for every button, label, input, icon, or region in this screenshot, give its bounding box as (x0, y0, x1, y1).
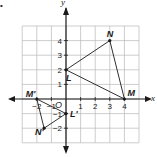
x-tick-label: 4 (122, 102, 127, 111)
vertex-m-prime (35, 97, 38, 100)
vertex-label: L' (70, 109, 78, 119)
y-tick-label: 4 (58, 37, 63, 46)
tick-labels: −2−112344321−1−2 (32, 37, 127, 134)
axes: x y O (8, 0, 155, 154)
x-tick-label: −2 (32, 102, 42, 111)
y-axis-label: y (60, 0, 65, 7)
y-axis-arrow-down (63, 146, 69, 154)
vertex-label: N (107, 29, 114, 39)
x-tick-label: 3 (108, 102, 113, 111)
vertex-label: M (127, 88, 135, 98)
vertex-label: M' (26, 89, 36, 99)
vertex-m (123, 97, 126, 100)
x-tick-label: 2 (93, 102, 98, 111)
coordinate-plane: x y O −2−112344321−1−2 LNML'M'N' (0, 0, 157, 157)
grid (22, 26, 139, 143)
vertex-label: N' (35, 127, 44, 137)
y-tick-label: 3 (58, 51, 63, 60)
y-tick-label: 1 (58, 80, 63, 89)
vertex-n (108, 39, 111, 42)
vertex-l-prime (64, 112, 67, 115)
x-axis-label: x (150, 93, 155, 103)
y-axis-arrow-up (63, 7, 69, 15)
vertex-l (64, 68, 67, 71)
vertex-label: L (66, 73, 72, 83)
y-tick-label: 2 (58, 66, 63, 75)
y-tick-label: −2 (53, 124, 63, 133)
x-axis-arrow-left (8, 96, 15, 102)
x-tick-label: 1 (78, 102, 83, 111)
